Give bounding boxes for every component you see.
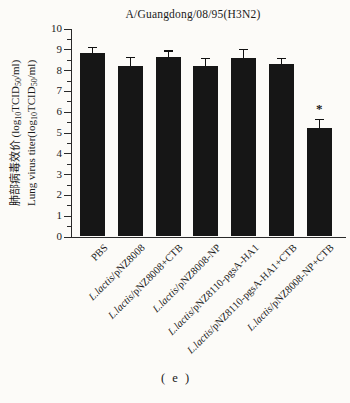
y-major-tick xyxy=(64,174,71,175)
error-bar-cap xyxy=(315,119,324,120)
bar xyxy=(156,57,181,237)
error-bar-cap xyxy=(126,57,135,58)
y-major-tick xyxy=(64,49,71,50)
error-bar-stem xyxy=(130,57,131,66)
y-tick-label: 4 xyxy=(38,147,62,160)
y-minor-tick xyxy=(67,81,71,82)
panel-label: ( e ) xyxy=(152,371,200,386)
bar xyxy=(231,58,256,237)
y-tick-label: 1 xyxy=(38,209,62,222)
significance-asterisk: * xyxy=(311,101,327,117)
y-minor-tick xyxy=(67,101,71,102)
error-bar-cap xyxy=(239,49,248,50)
bar xyxy=(193,66,218,237)
y-major-tick xyxy=(64,237,71,238)
y-axis-label-line: 肺部病毒效价 (log10TCID50/ml) xyxy=(7,33,23,233)
y-minor-tick xyxy=(67,39,71,40)
error-bar-cap xyxy=(164,50,173,51)
y-major-tick xyxy=(64,112,71,113)
error-bar-cap xyxy=(88,47,97,48)
y-major-tick xyxy=(64,153,71,154)
y-tick-label: 10 xyxy=(38,22,62,35)
bar xyxy=(307,128,332,236)
y-major-tick xyxy=(64,133,71,134)
y-tick-label: 2 xyxy=(38,188,62,201)
error-bar-stem xyxy=(205,58,206,66)
y-tick-label: 6 xyxy=(38,105,62,118)
y-minor-tick xyxy=(67,164,71,165)
y-axis-line xyxy=(71,29,72,238)
y-tick-label: 0 xyxy=(38,230,62,243)
bar xyxy=(80,53,105,236)
y-major-tick xyxy=(64,91,71,92)
y-tick-label: 9 xyxy=(38,43,62,56)
y-tick-label: 7 xyxy=(38,84,62,97)
y-minor-tick xyxy=(67,60,71,61)
error-bar-cap xyxy=(277,58,286,59)
bar-chart: 012345678910*PBSL.lactis/pNZ8008L.lactis… xyxy=(0,0,350,403)
y-major-tick xyxy=(64,195,71,196)
y-minor-tick xyxy=(67,122,71,123)
y-minor-tick xyxy=(67,185,71,186)
y-major-tick xyxy=(64,29,71,30)
y-tick-label: 3 xyxy=(38,168,62,181)
bar xyxy=(118,66,143,237)
x-axis-line xyxy=(71,237,346,238)
y-minor-tick xyxy=(67,226,71,227)
y-minor-tick xyxy=(67,205,71,206)
y-major-tick xyxy=(64,216,71,217)
y-major-tick xyxy=(64,70,71,71)
error-bar-stem xyxy=(319,119,320,128)
y-axis-label: 肺部病毒效价 (log10TCID50/ml)Lung virus titer(… xyxy=(7,33,41,233)
y-minor-tick xyxy=(67,143,71,144)
y-axis-label-line: Lung virus titer(log10TCID50/ml) xyxy=(23,33,39,233)
error-bar-stem xyxy=(243,49,244,57)
figure-panel: A/Guangdong/08/95(H3N2) 012345678910*PBS… xyxy=(0,0,350,403)
y-tick-label: 5 xyxy=(38,126,62,139)
y-tick-label: 8 xyxy=(38,64,62,77)
error-bar-cap xyxy=(201,58,210,59)
bar xyxy=(269,64,294,237)
